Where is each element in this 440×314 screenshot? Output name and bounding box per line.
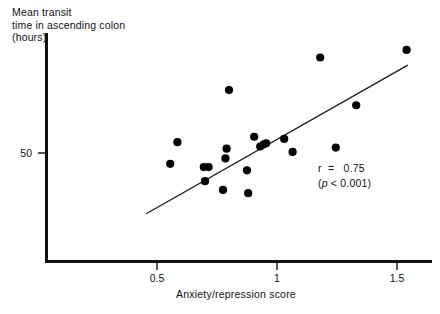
x-axis-title-wrap: Anxiety/repression score <box>0 288 440 300</box>
data-point <box>244 189 252 197</box>
data-point <box>223 145 231 153</box>
data-point <box>201 177 209 185</box>
x-axis-title: Anxiety/repression score <box>176 288 296 300</box>
x-tick-label-1: 1 <box>274 272 280 284</box>
data-point <box>219 186 227 194</box>
data-point <box>225 86 233 94</box>
data-point <box>243 166 251 174</box>
x-tick-label-0.5: 0.5 <box>150 272 165 284</box>
data-point <box>289 148 297 156</box>
regression-trendline <box>146 65 408 214</box>
data-point <box>262 139 270 147</box>
data-point <box>173 138 181 146</box>
data-point <box>166 160 174 168</box>
data-points-group <box>166 46 411 197</box>
p-value-text: (p < 0.001) <box>318 176 371 191</box>
p-value-rest: < 0.001) <box>328 177 372 189</box>
data-point <box>403 46 411 54</box>
data-point <box>205 163 213 171</box>
data-point <box>352 101 360 109</box>
data-point <box>280 135 288 143</box>
x-tick-label-1.5: 1.5 <box>390 272 405 284</box>
correlation-coefficient-text: r = 0.75 <box>318 161 371 176</box>
axes-group <box>45 33 432 262</box>
data-point <box>221 154 229 162</box>
data-point <box>332 143 340 151</box>
plot-canvas: 50 0.5 1 1.5 <box>0 0 440 314</box>
scatter-plot-figure: Mean transit time in ascending colon (ho… <box>0 0 440 314</box>
y-tick-label-50: 50 <box>20 147 32 159</box>
data-point <box>316 53 324 61</box>
statistics-annotation: r = 0.75 (p < 0.001) <box>318 161 371 191</box>
data-point <box>250 133 258 141</box>
